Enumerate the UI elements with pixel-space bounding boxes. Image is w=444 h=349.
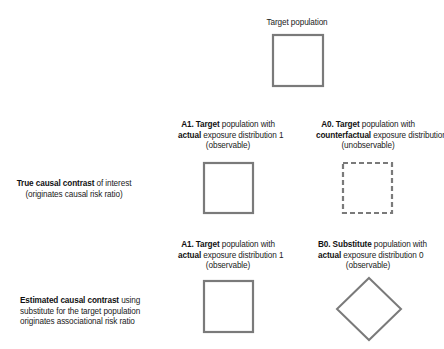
b0-substitute-diamond xyxy=(337,278,401,340)
a0-target-dashed-square xyxy=(343,163,392,213)
a1-target-square-row2 xyxy=(204,281,253,332)
target-population-square xyxy=(273,35,323,86)
diagram-shapes xyxy=(0,0,444,349)
a1-target-square-row1 xyxy=(204,163,253,213)
